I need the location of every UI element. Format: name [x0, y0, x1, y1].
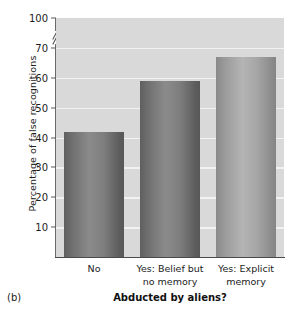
y-axis-tick-mark — [51, 77, 56, 78]
y-axis-tick-mark — [51, 18, 56, 19]
x-axis-category-label-line: Yes: Belief but — [132, 263, 208, 276]
y-axis-tick-mark — [51, 47, 56, 48]
x-axis-category-label: No — [56, 263, 132, 276]
x-axis-spine — [55, 257, 285, 258]
x-axis-category-label-line: memory — [208, 276, 284, 289]
y-axis-tick-label: 70 — [35, 42, 48, 53]
bar-series — [56, 18, 284, 257]
y-axis-tick-label: 40 — [35, 132, 48, 143]
y-axis-tick-mark — [51, 107, 56, 108]
y-axis-tick-label: 50 — [35, 102, 48, 113]
plot-area — [56, 18, 284, 257]
y-axis-tick-label: 100 — [29, 13, 48, 24]
figure-panel-b: Percentage of false recognitions 1020304… — [0, 0, 299, 309]
x-axis-category-label-line: Yes: Explicit — [208, 263, 284, 276]
y-axis-tick-label: 60 — [35, 72, 48, 83]
x-axis-category-label-line: No — [56, 263, 132, 276]
x-axis-title: Abducted by aliens? — [56, 292, 284, 303]
bar — [140, 81, 200, 257]
bar — [216, 57, 276, 257]
x-axis-category-label-line: no memory — [132, 276, 208, 289]
bar — [64, 132, 124, 257]
x-axis-category-labels: NoYes: Belief butno memoryYes: Explicitm… — [56, 263, 284, 295]
y-axis-tick-label: 30 — [35, 162, 48, 173]
y-axis-tick-label: 20 — [35, 192, 48, 203]
y-axis-tick-mark — [51, 227, 56, 228]
y-axis-tick-labels: 10203040506070100 — [0, 0, 52, 309]
y-axis-tick-mark — [51, 197, 56, 198]
x-axis-category-label: Yes: Explicitmemory — [208, 263, 284, 288]
y-axis-tick-label: 10 — [35, 222, 48, 233]
y-axis-tick-mark — [51, 167, 56, 168]
x-axis-category-label: Yes: Belief butno memory — [132, 263, 208, 288]
panel-letter: (b) — [7, 292, 21, 303]
y-axis-tick-mark — [51, 137, 56, 138]
